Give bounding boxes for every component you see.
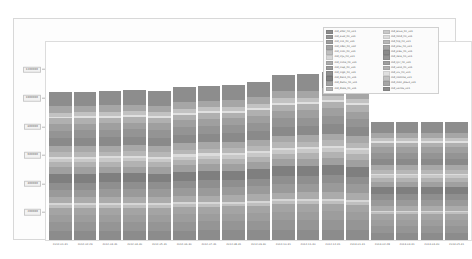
chart-figure: 20000040000060000080000010000001200000 2… xyxy=(13,18,456,240)
legend-item[interactable]: md_ctsp_fin_v01 xyxy=(326,66,380,71)
legend-label: md_varios_v01 xyxy=(391,88,410,91)
legend-swatch xyxy=(326,81,333,86)
legend-item[interactable]: md_ctgo_fin_v01 xyxy=(326,71,380,76)
bar-segment xyxy=(99,91,122,105)
legend-label: md_ccot_fin_v01 xyxy=(335,51,356,54)
bar-segment xyxy=(173,188,196,196)
bar-column[interactable] xyxy=(148,42,171,240)
bar-column[interactable] xyxy=(198,42,221,240)
bar-segment xyxy=(322,108,345,116)
legend-item[interactable]: md_cco_fin_v01 xyxy=(326,40,380,45)
bar-segment xyxy=(74,190,97,198)
y-axis-tick-label: 1200000 xyxy=(23,66,41,73)
bar-column[interactable] xyxy=(445,42,468,240)
bar-column[interactable] xyxy=(49,42,72,240)
legend-item[interactable]: md_ctma_fin_v01 xyxy=(326,61,380,66)
bar-stack xyxy=(123,90,146,240)
legend-item[interactable]: md_clju_fin_v01 xyxy=(326,55,380,60)
bar-column[interactable] xyxy=(99,42,122,240)
bar-segment xyxy=(148,130,171,137)
bar-segment xyxy=(148,222,171,231)
legend-item[interactable]: md_ecua_fin_v01 xyxy=(383,30,437,35)
legend-item[interactable]: md_plaz_fin_v01 xyxy=(383,45,437,50)
x-axis-tick-label: 2012-06-30 xyxy=(172,244,197,247)
bar-segment xyxy=(123,173,146,182)
bar-segment xyxy=(322,204,345,212)
bar-segment xyxy=(222,164,245,171)
legend-swatch xyxy=(383,87,390,92)
bar-segment xyxy=(123,215,146,222)
legend-item[interactable]: md_viv_fin_v01 xyxy=(383,71,437,76)
legend-item[interactable]: md_fond_fin_v01 xyxy=(383,35,437,40)
legend-item[interactable]: md_tjcr_fin_v01 xyxy=(383,61,437,66)
bar-column[interactable] xyxy=(222,42,245,240)
x-axis-tick-label: 2012-09-30 xyxy=(246,244,271,247)
legend-item[interactable]: md_ccot_fin_v01 xyxy=(326,50,380,55)
legend-label: md_mon_plazo_v01 xyxy=(391,82,416,85)
bar-segment xyxy=(297,220,320,230)
bar-segment xyxy=(297,126,320,135)
bar-segment xyxy=(346,127,369,136)
bar-segment xyxy=(49,174,72,183)
bar-segment xyxy=(173,165,196,172)
legend-item[interactable]: md_diala_fin_v01 xyxy=(326,87,380,92)
bar-segment xyxy=(49,138,72,146)
x-axis-tick-label: 2012-05-31 xyxy=(147,244,172,247)
legend-item[interactable]: md_cdat_fin_v02 xyxy=(326,45,380,50)
bar-segment xyxy=(297,110,320,117)
bar-column[interactable] xyxy=(272,42,295,240)
y-axis-tick: 400000 xyxy=(24,181,45,188)
legend-item[interactable]: md_aval_fin_v01 xyxy=(326,35,380,40)
chart-legend[interactable]: md_ahor_fin_v01md_aval_fin_v01md_cco_fin… xyxy=(323,27,439,94)
bar-segment xyxy=(346,112,369,119)
x-axis-tick-label: 2012-08-31 xyxy=(221,244,246,247)
bar-stack xyxy=(247,82,270,240)
bar-segment xyxy=(421,122,444,133)
x-axis-tick-label: 2012-07-31 xyxy=(197,244,222,247)
legend-swatch xyxy=(326,45,333,50)
y-axis-tick-label: 200000 xyxy=(24,209,41,216)
legend-item[interactable]: md_daco_fin_v01 xyxy=(326,76,380,81)
legend-item[interactable]: md_dsmv_fin_v01 xyxy=(326,81,380,86)
bar-segment xyxy=(297,176,320,184)
legend-item[interactable]: md_mon_plazo_v01 xyxy=(383,81,437,86)
bar-segment xyxy=(346,230,369,240)
legend-swatch xyxy=(383,55,390,60)
bar-segment xyxy=(272,204,295,212)
bar-segment xyxy=(247,221,270,230)
bar-segment xyxy=(247,97,270,104)
bar-segment xyxy=(198,214,221,222)
bar-segment xyxy=(322,220,345,230)
bar-segment xyxy=(297,74,320,90)
bar-column[interactable] xyxy=(173,42,196,240)
bar-segment xyxy=(247,230,270,240)
legend-item[interactable]: md_hip_fin_v01 xyxy=(383,40,437,45)
x-axis-tick-label: 2013-02-28 xyxy=(370,244,395,247)
legend-item[interactable]: md_nomina_v01 xyxy=(383,76,437,81)
bar-segment xyxy=(74,231,97,240)
bar-segment xyxy=(272,159,295,166)
legend-item[interactable]: md_varios_v01 xyxy=(383,87,437,92)
y-axis-tick-mark xyxy=(42,212,45,213)
bar-stack xyxy=(371,121,394,240)
legend-item[interactable]: md_reca_fin_v01 xyxy=(383,55,437,60)
legend-item[interactable]: md_ahor_fin_v01 xyxy=(326,30,380,35)
bar-column[interactable] xyxy=(297,42,320,240)
bar-segment xyxy=(322,211,345,219)
bar-segment xyxy=(173,127,196,135)
bar-column[interactable] xyxy=(74,42,97,240)
x-axis-tick-label: 2012-11-30 xyxy=(296,244,321,247)
bar-segment xyxy=(272,118,295,126)
legend-swatch xyxy=(326,71,333,76)
legend-item[interactable]: md_prev_fin_v01 xyxy=(383,50,437,55)
bar-segment xyxy=(148,182,171,189)
legend-swatch xyxy=(383,45,390,50)
bar-column[interactable] xyxy=(123,42,146,240)
bar-column[interactable] xyxy=(247,42,270,240)
legend-item[interactable]: md_vato_fin_v01 xyxy=(383,66,437,71)
bar-segment xyxy=(322,183,345,192)
bar-segment xyxy=(222,133,245,142)
y-axis-tick: 600000 xyxy=(24,152,45,159)
bar-segment xyxy=(49,183,72,190)
bar-segment xyxy=(99,130,122,137)
